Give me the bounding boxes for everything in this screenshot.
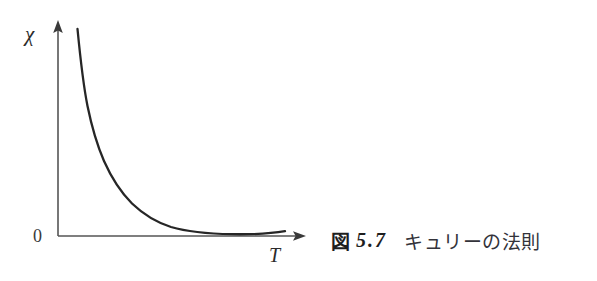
- figure-caption: 図 5.7 キュリーの法則: [331, 226, 541, 254]
- caption-figure-number: 5.7: [356, 229, 387, 252]
- curie-law-curve: [78, 29, 286, 234]
- x-axis-label: T: [269, 245, 280, 265]
- origin-label: 0: [33, 227, 42, 245]
- plot-area: χ T 0: [0, 0, 320, 281]
- y-axis-label: χ: [25, 24, 34, 45]
- figure-container: χ T 0 図 5.7 キュリーの法則: [0, 0, 597, 281]
- caption-figure-word: 図: [331, 227, 350, 254]
- curie-law-plot-svg: [0, 0, 320, 281]
- caption-figure-title: キュリーの法則: [404, 227, 541, 254]
